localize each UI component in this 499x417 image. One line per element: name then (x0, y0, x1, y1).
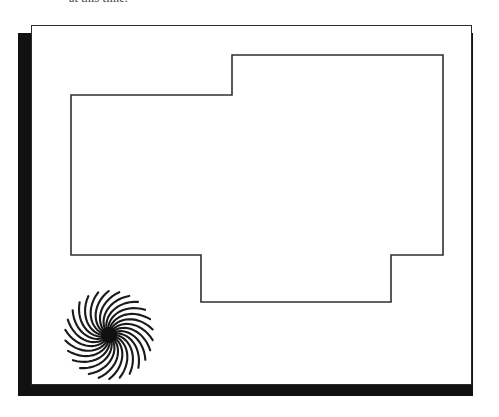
screenshot-root: at this time. (0, 0, 499, 417)
floor-plan-outline-path (71, 55, 443, 302)
clipped-caption: at this time. (0, 0, 499, 7)
spiral-rosette-ornament (62, 288, 156, 382)
spiral-rosette-svg (62, 288, 156, 382)
rosette-core (101, 327, 117, 343)
caption-text: at this time. (69, 0, 128, 5)
